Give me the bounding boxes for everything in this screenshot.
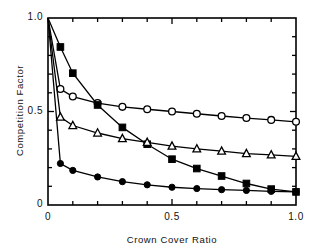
y-tick-label: 0 xyxy=(12,198,43,209)
filled-square-marker xyxy=(119,124,126,131)
open-circle-marker xyxy=(218,113,225,120)
open-circle-marker xyxy=(69,93,76,100)
open-circle-marker xyxy=(268,117,275,124)
filled-circle-series xyxy=(48,18,299,195)
x-tick-label: 1.0 xyxy=(282,211,310,222)
open-circle-marker xyxy=(243,115,250,122)
x-tick-label: 0.5 xyxy=(158,211,186,222)
filled-circle-marker xyxy=(243,187,249,193)
open-circle-series-line xyxy=(48,18,296,122)
filled-square-marker xyxy=(218,173,225,180)
filled-circle-marker xyxy=(194,185,200,191)
open-circle-marker xyxy=(144,106,151,113)
filled-square-series xyxy=(48,18,299,195)
y-tick-label: 1.0 xyxy=(12,11,43,22)
open-triangle-series xyxy=(48,18,300,159)
open-triangle-marker xyxy=(69,121,77,128)
filled-square-series-line xyxy=(48,18,296,192)
open-circle-marker xyxy=(193,110,200,117)
chart-figure: Competition Factor Crown Cover Ratio 00.… xyxy=(0,0,319,251)
filled-circle-marker xyxy=(70,167,76,173)
filled-circle-series-line xyxy=(48,18,296,192)
open-circle-marker xyxy=(293,118,300,125)
open-circle-series xyxy=(48,18,299,125)
x-tick-label: 0 xyxy=(34,211,62,222)
open-circle-marker xyxy=(57,86,64,93)
filled-square-marker xyxy=(57,44,64,51)
filled-square-marker xyxy=(243,180,250,187)
open-triangle-series-line xyxy=(48,18,296,156)
filled-square-marker xyxy=(94,102,101,109)
filled-circle-marker xyxy=(169,184,175,190)
filled-circle-marker xyxy=(119,179,125,185)
open-triangle-marker xyxy=(57,113,65,120)
filled-square-marker xyxy=(194,165,201,172)
filled-square-marker xyxy=(169,156,176,163)
filled-circle-marker xyxy=(268,188,274,194)
filled-circle-marker xyxy=(293,189,299,195)
filled-circle-marker xyxy=(57,160,63,166)
data-series-group xyxy=(48,18,300,195)
y-tick-label: 0.5 xyxy=(12,105,43,116)
open-circle-marker xyxy=(119,103,126,110)
filled-circle-marker xyxy=(219,187,225,193)
filled-circle-marker xyxy=(144,182,150,188)
filled-square-marker xyxy=(70,70,77,77)
filled-circle-marker xyxy=(95,174,101,180)
x-axis-title: Crown Cover Ratio xyxy=(48,234,296,245)
open-circle-marker xyxy=(169,108,176,115)
